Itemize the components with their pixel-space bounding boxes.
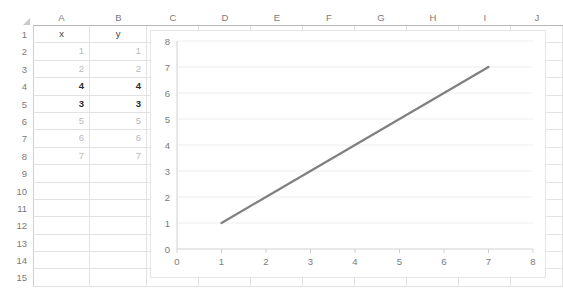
cell-A7[interactable]: 6 — [33, 130, 90, 147]
cell-B14[interactable] — [90, 252, 147, 269]
cell-A13[interactable] — [33, 235, 90, 252]
y-axis-tick-label: 3 — [165, 166, 170, 177]
line-chart[interactable]: 012345678012345678 — [150, 30, 546, 278]
y-axis-tick-label: 6 — [165, 88, 170, 99]
x-axis-tick-label: 4 — [352, 256, 357, 267]
y-axis-tick-label: 1 — [165, 218, 170, 229]
row-header-9[interactable]: 9 — [0, 165, 33, 182]
row-header-14[interactable]: 14 — [0, 252, 33, 269]
cell-A11[interactable] — [33, 200, 90, 217]
cell-A4[interactable]: 4 — [33, 78, 90, 95]
row-header-2[interactable]: 2 — [0, 43, 33, 60]
y-axis-tick-label: 5 — [165, 114, 170, 125]
row-header-13[interactable]: 13 — [0, 235, 33, 252]
x-axis-tick-label: 5 — [397, 256, 402, 267]
x-axis-tick-label: 1 — [219, 256, 224, 267]
cell-A8[interactable]: 7 — [33, 148, 90, 165]
cell-B5[interactable]: 3 — [90, 96, 147, 113]
cell-A2[interactable]: 1 — [33, 43, 90, 60]
y-axis-tick-label: 8 — [165, 36, 170, 47]
cell-A6[interactable]: 5 — [33, 113, 90, 130]
cell-A12[interactable] — [33, 217, 90, 234]
x-axis-tick-label: 3 — [308, 256, 313, 267]
cell-A1[interactable]: x — [33, 26, 90, 43]
column-header-b[interactable]: B — [90, 10, 147, 26]
row-header-5[interactable]: 5 — [0, 96, 33, 113]
cell-B3[interactable]: 2 — [90, 61, 147, 78]
column-header-row: ABCDEFGHIJ — [0, 10, 563, 26]
column-header-g[interactable]: G — [355, 10, 407, 26]
column-header-f[interactable]: F — [303, 10, 355, 26]
row-header-15[interactable]: 15 — [0, 269, 33, 286]
cell-B2[interactable]: 1 — [90, 43, 147, 60]
column-header-i[interactable]: I — [459, 10, 511, 26]
x-axis-tick-label: 8 — [530, 256, 535, 267]
cell-B4[interactable]: 4 — [90, 78, 147, 95]
cell-B10[interactable] — [90, 183, 147, 200]
column-header-j[interactable]: J — [511, 10, 563, 26]
row-header-7[interactable]: 7 — [0, 130, 33, 147]
row-header-11[interactable]: 11 — [0, 200, 33, 217]
row-header-6[interactable]: 6 — [0, 113, 33, 130]
column-header-d[interactable]: D — [199, 10, 251, 26]
cell-B11[interactable] — [90, 200, 147, 217]
row-header-4[interactable]: 4 — [0, 78, 33, 95]
x-axis-tick-label: 6 — [441, 256, 446, 267]
row-header-12[interactable]: 12 — [0, 217, 33, 234]
column-header-a[interactable]: A — [33, 10, 90, 26]
select-all-corner[interactable] — [0, 10, 33, 26]
cell-B8[interactable]: 7 — [90, 148, 147, 165]
column-header-h[interactable]: H — [407, 10, 459, 26]
cell-B12[interactable] — [90, 217, 147, 234]
cell-B6[interactable]: 5 — [90, 113, 147, 130]
cell-B1[interactable]: y — [90, 26, 147, 43]
row-header-1[interactable]: 1 — [0, 26, 33, 43]
row-header-3[interactable]: 3 — [0, 61, 33, 78]
cell-A5[interactable]: 3 — [33, 96, 90, 113]
y-axis-tick-label: 2 — [165, 192, 170, 203]
cell-A15[interactable] — [33, 269, 90, 286]
cell-B9[interactable] — [90, 165, 147, 182]
cell-A9[interactable] — [33, 165, 90, 182]
row-header-10[interactable]: 10 — [0, 183, 33, 200]
y-axis-tick-label: 4 — [165, 140, 170, 151]
cell-B13[interactable] — [90, 235, 147, 252]
x-axis-tick-label: 7 — [486, 256, 491, 267]
cell-B15[interactable] — [90, 269, 147, 286]
cell-A14[interactable] — [33, 252, 90, 269]
column-header-e[interactable]: E — [251, 10, 303, 26]
y-axis-tick-label: 7 — [165, 62, 170, 73]
x-axis-tick-label: 2 — [263, 256, 268, 267]
cell-B7[interactable]: 6 — [90, 130, 147, 147]
cell-A10[interactable] — [33, 183, 90, 200]
x-axis-tick-label: 0 — [174, 256, 179, 267]
row-header-8[interactable]: 8 — [0, 148, 33, 165]
select-all-triangle-icon — [23, 18, 30, 25]
y-axis-tick-label: 0 — [165, 244, 170, 255]
column-header-c[interactable]: C — [147, 10, 199, 26]
cell-A3[interactable]: 2 — [33, 61, 90, 78]
